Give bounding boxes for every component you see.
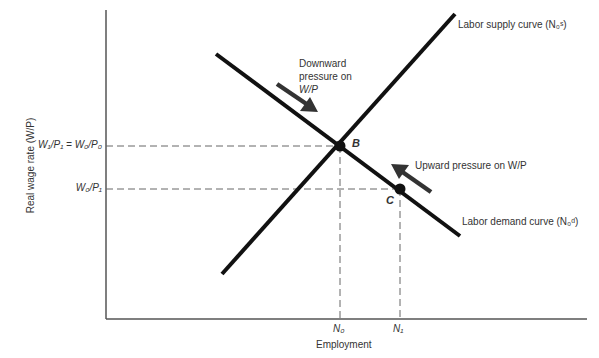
x-tick-n0: N₀ <box>333 323 344 334</box>
y-tick-w0p1: W₀/P₁ <box>76 182 102 193</box>
y-axis-label: Real wage rate (W/P) <box>25 106 36 226</box>
y-tick-w1p1-equals-w0p0: W₁/P₁ = W₀/P₀ <box>38 139 102 150</box>
point-b-marker <box>335 141 346 152</box>
upward-pressure-label: Upward pressure on W/P <box>415 160 527 171</box>
labor-demand-curve-label: Labor demand curve (N₀ᵈ) <box>462 216 578 227</box>
downward-pressure-line-3: W/P <box>299 84 318 95</box>
x-tick-n1: N₁ <box>393 323 403 334</box>
diagram-canvas <box>0 0 599 358</box>
labor-supply-curve-label: Labor supply curve (N₀ˢ) <box>458 19 567 30</box>
point-b-label: B <box>352 137 360 149</box>
x-axis-label: Employment <box>316 339 372 350</box>
point-c-label: C <box>386 194 394 206</box>
downward-pressure-line-2: pressure on <box>299 71 352 82</box>
downward-pressure-line-1: Downward <box>299 58 346 69</box>
point-c-marker <box>395 184 406 195</box>
